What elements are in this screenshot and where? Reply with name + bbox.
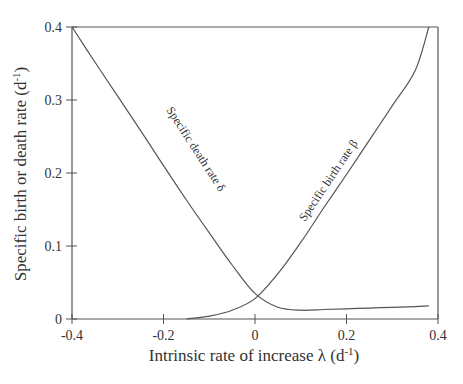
plot-area bbox=[72, 27, 438, 319]
y-axis-title: Specific birth or death rate (d-1) bbox=[10, 67, 30, 282]
x-axis-title: Intrinsic rate of increase λ (d-1) bbox=[149, 345, 359, 365]
birth-curve-label: Specific birth rate β bbox=[296, 137, 361, 224]
chart: 00.10.20.30.4 -0.4-0.200.20.4 Specific d… bbox=[0, 0, 463, 384]
x-tick-label: -0.2 bbox=[152, 328, 174, 343]
x-tick-label: 0.4 bbox=[429, 328, 447, 343]
birth-rate-curve bbox=[186, 27, 428, 319]
x-axis-ticks: -0.4-0.200.20.4 bbox=[61, 314, 447, 343]
y-tick-label: 0.3 bbox=[45, 93, 63, 108]
x-tick-label: 0.2 bbox=[338, 328, 356, 343]
death-rate-curve bbox=[72, 27, 429, 310]
y-tick-label: 0.4 bbox=[45, 20, 63, 35]
x-tick-label: 0 bbox=[252, 328, 259, 343]
x-tick-label: -0.4 bbox=[61, 328, 83, 343]
y-tick-label: 0.2 bbox=[45, 166, 63, 181]
y-tick-label: 0 bbox=[55, 312, 62, 327]
y-tick-label: 0.1 bbox=[45, 239, 63, 254]
